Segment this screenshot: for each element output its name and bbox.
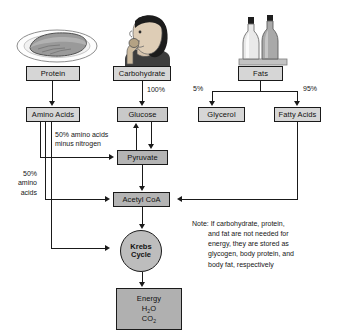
note-line-2: and fat are not needed for xyxy=(192,229,322,239)
node-carbohydrate[interactable]: Carbohydrate xyxy=(113,66,171,81)
edge-carbohydrate-to-glucose xyxy=(142,81,143,102)
edge-amino-to-krebs-vertical xyxy=(51,122,52,249)
node-acetyl-coa[interactable]: Acetyl CoA xyxy=(113,192,170,207)
edge-fatty-acids-to-acetyl-vertical xyxy=(297,122,298,200)
krebs-label-line2: Cycle xyxy=(131,251,151,259)
node-fatty-acids-label: Fatty Acids xyxy=(279,111,317,119)
node-krebs-cycle[interactable]: Krebs Cycle xyxy=(120,230,162,272)
edge-pyruvate-to-acetyl-coa xyxy=(142,165,143,187)
energy-label-carbon-dioxide: CO2 xyxy=(142,314,156,324)
steak-on-plate-illustration xyxy=(14,24,100,66)
node-fats-label: Fats xyxy=(253,70,268,78)
edge-protein-to-amino-acids xyxy=(52,81,53,102)
node-glycerol-label: Glycerol xyxy=(207,111,235,119)
node-energy-output[interactable]: Energy H2O CO2 xyxy=(116,288,182,330)
node-amino-acids[interactable]: Amino Acids xyxy=(26,107,80,122)
edge-fats-bus xyxy=(212,91,297,92)
arrowhead-fatty-acids-to-acetyl-coa xyxy=(177,196,182,202)
edge-amino-to-krebs-horizontal xyxy=(51,248,106,249)
label-amino-left-line1: 50% xyxy=(23,170,37,177)
node-amino-acids-label: Amino Acids xyxy=(32,111,74,119)
arrowhead-krebs-to-energy xyxy=(139,282,145,287)
label-amino-pyruvate-line2: minus nitrogen xyxy=(55,140,101,147)
node-carbohydrate-label: Carbohydrate xyxy=(119,70,166,78)
node-fatty-acids[interactable]: Fatty Acids xyxy=(274,107,321,122)
label-50-percent-amino-minus-nitrogen: 50% amino acids minus nitrogen xyxy=(55,131,137,149)
arrowhead-fats-to-glycerol xyxy=(209,101,215,106)
note-line-1: Note: If carbohydrate, protein, xyxy=(192,219,322,229)
label-5-percent: 5% xyxy=(193,85,203,94)
edge-glucose-to-pyruvate xyxy=(151,122,152,145)
arrowhead-glucose-to-pyruvate xyxy=(148,144,154,149)
label-amino-left-line3: acids xyxy=(21,189,37,196)
arrowhead-amino-to-pyruvate xyxy=(109,154,114,160)
note-line-3: energy, they are stored as xyxy=(192,239,322,249)
note-line-5: body fat, respectively xyxy=(192,260,322,270)
node-pyruvate[interactable]: Pyruvate xyxy=(117,150,168,165)
node-glycerol[interactable]: Glycerol xyxy=(198,107,245,122)
edge-amino-to-acetyl-vertical xyxy=(45,122,46,200)
arrowhead-fats-to-fatty-acids xyxy=(294,101,300,106)
label-95-percent: 95% xyxy=(303,85,317,94)
node-pyruvate-label: Pyruvate xyxy=(127,154,157,162)
node-acetyl-coa-label: Acetyl CoA xyxy=(122,196,160,204)
arrowhead-acetyl-coa-to-krebs xyxy=(139,224,145,229)
edge-amino-to-pyruvate-vertical xyxy=(40,122,41,158)
storage-note: Note: If carbohydrate, protein, and fat … xyxy=(192,219,322,270)
note-line-4: glycogen, body protein, and xyxy=(192,249,322,259)
node-glucose-label: Glucose xyxy=(128,111,156,119)
energy-label-line1: Energy xyxy=(137,294,161,304)
label-amino-left-line2: amino xyxy=(18,179,37,186)
edge-fats-stem xyxy=(260,81,261,91)
arrowhead-amino-to-krebs xyxy=(105,245,110,251)
edge-fatty-acids-to-acetyl-horizontal xyxy=(182,199,298,200)
arrowhead-carbohydrate-to-glucose xyxy=(139,101,145,106)
edge-amino-to-acetyl-horizontal xyxy=(45,199,106,200)
node-protein-label: Protein xyxy=(41,70,65,78)
arrowhead-pyruvate-to-acetyl-coa xyxy=(139,186,145,191)
label-100-percent: 100% xyxy=(147,86,165,95)
arrowhead-pyruvate-to-glucose xyxy=(133,123,139,128)
node-glucose[interactable]: Glucose xyxy=(117,107,168,122)
label-50-percent-amino-acids: 50% amino acids xyxy=(2,169,37,197)
energy-label-water: H2O xyxy=(142,304,156,314)
arrowhead-protein-to-amino-acids xyxy=(49,101,55,106)
metabolism-flow-diagram: Protein Carbohydrate Fats Amino Acids Gl… xyxy=(0,0,337,334)
label-amino-pyruvate-line1: 50% amino acids xyxy=(55,131,108,138)
node-fats[interactable]: Fats xyxy=(238,66,283,81)
arrowhead-amino-to-acetyl-coa xyxy=(105,196,110,202)
oil-bottles-illustration xyxy=(235,14,291,66)
person-eating-illustration xyxy=(117,12,177,66)
node-protein[interactable]: Protein xyxy=(26,66,80,81)
